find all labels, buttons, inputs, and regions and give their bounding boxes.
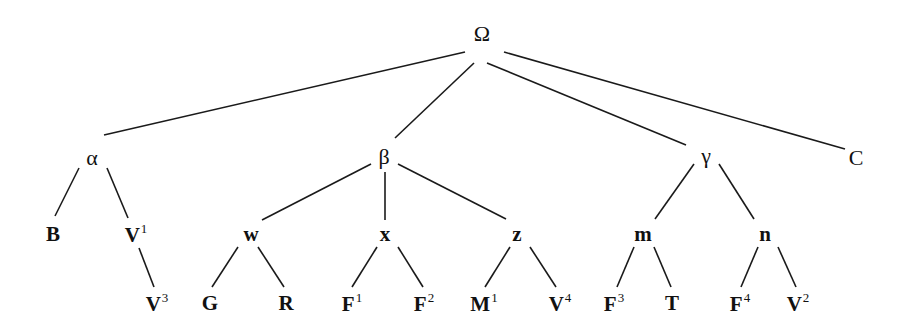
edge-gamma-n bbox=[719, 164, 754, 219]
node-superscript: 1 bbox=[356, 290, 363, 305]
node-label: Ω bbox=[474, 21, 490, 46]
node-z: z bbox=[512, 224, 521, 245]
node-V2: V2 bbox=[787, 292, 810, 315]
node-superscript: 1 bbox=[491, 290, 498, 305]
node-gamma: γ bbox=[701, 145, 711, 167]
node-x: x bbox=[380, 224, 391, 245]
node-alpha: α bbox=[86, 147, 98, 169]
node-label: m bbox=[634, 222, 652, 246]
node-label: F bbox=[730, 292, 743, 316]
node-label: V bbox=[787, 292, 802, 316]
node-T: T bbox=[665, 293, 679, 314]
node-label: C bbox=[849, 145, 864, 170]
edge-gamma-m bbox=[655, 164, 694, 219]
node-R: R bbox=[278, 293, 293, 314]
node-superscript: 1 bbox=[141, 221, 148, 236]
node-superscript: 4 bbox=[565, 290, 572, 305]
node-label: α bbox=[86, 145, 98, 170]
edge-alpha-V1 bbox=[107, 168, 128, 218]
node-n: n bbox=[759, 224, 771, 245]
edge-x-F2 bbox=[398, 247, 423, 287]
edge-m-T bbox=[654, 247, 671, 287]
node-label: z bbox=[512, 222, 521, 246]
edge-w-G bbox=[212, 247, 238, 287]
node-label: V bbox=[146, 292, 161, 316]
node-F3: F3 bbox=[604, 292, 624, 315]
edge-x-F1 bbox=[352, 247, 377, 287]
node-F2: F2 bbox=[414, 292, 434, 315]
edge-m-F3 bbox=[617, 247, 634, 287]
node-label: F bbox=[414, 292, 427, 316]
node-beta: β bbox=[378, 146, 389, 168]
node-w: w bbox=[243, 224, 258, 245]
tree-edges bbox=[0, 0, 908, 327]
node-label: n bbox=[759, 222, 771, 246]
edge-w-R bbox=[258, 247, 284, 287]
node-omega: Ω bbox=[474, 23, 490, 45]
node-V3: V3 bbox=[146, 292, 169, 315]
node-F1: F1 bbox=[342, 292, 362, 315]
node-superscript: 2 bbox=[803, 290, 810, 305]
node-V4: V4 bbox=[549, 292, 572, 315]
edge-alpha-B bbox=[55, 168, 79, 216]
node-G: G bbox=[202, 293, 218, 314]
node-label: γ bbox=[701, 143, 711, 168]
node-label: V bbox=[125, 223, 140, 247]
node-m: m bbox=[634, 224, 652, 245]
edge-beta-z bbox=[398, 164, 506, 219]
node-label: w bbox=[243, 222, 258, 246]
node-V1: V1 bbox=[125, 223, 148, 246]
node-label: R bbox=[278, 291, 293, 315]
edge-omega-beta bbox=[395, 63, 474, 138]
node-B: B bbox=[46, 224, 60, 245]
edge-z-M1 bbox=[485, 247, 510, 287]
node-superscript: 4 bbox=[744, 290, 751, 305]
edge-V1-V3 bbox=[139, 248, 154, 287]
edge-n-V2 bbox=[778, 247, 796, 287]
node-superscript: 2 bbox=[428, 290, 435, 305]
node-M1: M1 bbox=[470, 292, 497, 315]
edge-beta-w bbox=[262, 164, 371, 220]
node-superscript: 3 bbox=[618, 290, 625, 305]
node-label: M bbox=[470, 292, 490, 316]
node-F4: F4 bbox=[730, 292, 750, 315]
node-label: β bbox=[378, 144, 389, 169]
node-label: x bbox=[380, 222, 391, 246]
node-label: T bbox=[665, 291, 679, 315]
edge-z-V4 bbox=[530, 247, 556, 287]
node-label: V bbox=[549, 292, 564, 316]
node-superscript: 3 bbox=[162, 290, 169, 305]
node-C: C bbox=[849, 147, 864, 169]
edge-n-F4 bbox=[741, 247, 758, 287]
node-label: B bbox=[46, 222, 60, 246]
node-label: F bbox=[604, 292, 617, 316]
node-label: G bbox=[202, 291, 218, 315]
edge-omega-C bbox=[504, 52, 845, 149]
node-label: F bbox=[342, 292, 355, 316]
